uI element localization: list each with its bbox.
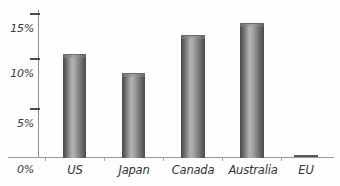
bar-cap-australia — [240, 24, 264, 27]
x-axis-label-canada: Canada — [165, 163, 221, 177]
y-axis-label-5: 5% — [0, 117, 34, 130]
x-axis-label-us: US — [50, 163, 100, 177]
y-axis-label-0: 0% — [0, 163, 34, 176]
bar-cap-japan — [122, 74, 145, 77]
x-tick-0 — [45, 158, 46, 161]
x-tick-3 — [222, 158, 223, 161]
y-axis-line — [38, 10, 39, 158]
x-tick-2 — [163, 158, 164, 161]
y-tick-10 — [30, 58, 40, 60]
x-tick-4 — [281, 158, 282, 161]
bar-australia — [240, 23, 264, 158]
x-axis-label-eu: EU — [288, 163, 324, 177]
bar-eu — [294, 155, 318, 157]
bar-us — [63, 54, 86, 158]
bar-chart: 15% 10% 5% 0% US Japan Canada Australia … — [0, 0, 340, 186]
bar-japan — [122, 73, 145, 158]
y-axis-label-15: 15% — [0, 22, 34, 35]
x-axis-label-japan: Japan — [108, 163, 160, 177]
bar-cap-canada — [181, 36, 205, 39]
bar-canada — [181, 35, 205, 158]
x-tick-1 — [104, 158, 105, 161]
bar-cap-us — [63, 55, 86, 58]
y-tick-15 — [30, 13, 40, 15]
x-axis-label-australia: Australia — [221, 163, 285, 177]
y-tick-5 — [30, 108, 40, 110]
x-axis-line — [8, 157, 334, 158]
y-axis-label-10: 10% — [0, 67, 34, 80]
